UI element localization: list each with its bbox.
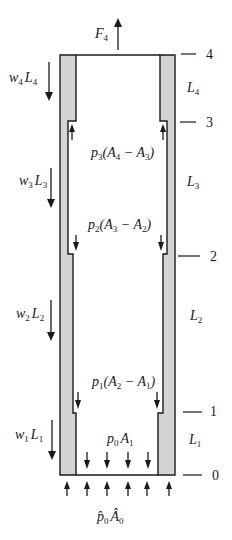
weight-arrow-down-icon [47,168,55,208]
f4-force-arrow-up-icon [114,18,122,50]
p1-arrow-down-icon [154,392,160,409]
stepped-tube-diagram: F4 4 3 2 1 0 L4 L3 L2 L1 w4L4 w3L3 [0,0,232,540]
level-2-marker: 2 [178,249,217,264]
level-4-marker: 4 [181,47,213,62]
left-wall [60,55,76,475]
right-wall [158,55,175,475]
svg-text:2: 2 [210,249,217,264]
level-1-marker: 1 [183,404,217,419]
weight-label-w2L2: w2L2 [16,306,44,323]
weight-arrow-down-icon [47,300,55,341]
p1-arrow-down-icon [75,392,81,409]
p1-label: p1(A2 − A1) [91,374,155,391]
p2-label: p2(A3 − A2) [87,217,151,234]
p2-arrow-down-icon [158,235,164,251]
p0hat-external-arrows-up-icon [64,481,172,496]
weight-arrow-down-icon [45,62,53,101]
p2-arrow-down-icon [73,235,79,251]
level-0-marker: 0 [183,468,219,483]
svg-text:3: 3 [206,115,213,130]
segment-length-L2: L2 [189,308,202,325]
p0hat-A0hat-label: p̂0Â0 [96,508,124,526]
segment-length-L3: L3 [186,174,200,191]
svg-text:4: 4 [206,47,213,62]
p3-arrow-up-icon [69,124,75,140]
p0-internal-arrows-down-icon [84,452,151,469]
p3-arrow-up-icon [160,124,166,140]
segment-length-L1: L1 [188,432,201,449]
weight-label-w3L3: w3L3 [19,173,48,190]
segment-length-L4: L4 [186,80,200,97]
svg-text:1: 1 [210,404,217,419]
f4-label: F4 [94,26,109,43]
weight-label-w1L1: w1L1 [15,427,43,444]
level-3-marker: 3 [180,115,213,130]
svg-text:0: 0 [212,468,219,483]
weight-arrow-down-icon [48,420,56,460]
p3-label: p3(A4 − A3) [90,145,154,162]
weight-label-w4L4: w4L4 [9,70,38,87]
p0A1-label: p0A1 [106,431,134,448]
